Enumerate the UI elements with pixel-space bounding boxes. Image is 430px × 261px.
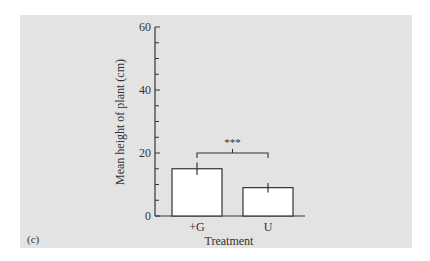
x-tick-label: +G — [189, 220, 205, 234]
bars — [172, 162, 293, 216]
significance-annotation: *** — [197, 136, 268, 158]
bar-chart: 0204060 +GU *** Mean height of plant (cm… — [0, 0, 430, 261]
x-tick-label: U — [264, 220, 273, 234]
y-axis-label: Mean height of plant (cm) — [113, 59, 127, 185]
x-axis: +GU — [155, 216, 305, 234]
panel-label: (c) — [27, 233, 40, 246]
y-tick-label: 20 — [139, 146, 151, 160]
significance-stars: *** — [224, 136, 241, 148]
y-tick-label: 60 — [139, 20, 151, 34]
bracket-line — [197, 153, 268, 158]
y-axis: 0204060 — [139, 20, 160, 223]
bar — [172, 169, 222, 216]
y-tick-label: 0 — [145, 209, 151, 223]
y-tick-label: 40 — [139, 83, 151, 97]
x-axis-label: Treatment — [205, 234, 255, 248]
